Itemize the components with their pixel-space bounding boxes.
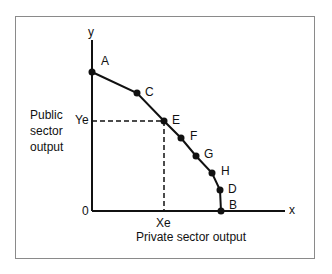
point-label-a: A [101, 55, 109, 68]
point-label-e: E [172, 114, 180, 127]
point-h-marker [209, 170, 216, 177]
frontier-points [89, 69, 225, 215]
point-label-c: C [145, 86, 154, 99]
xe-label: Xe [156, 217, 171, 230]
x-axis-label: x [289, 204, 295, 217]
point-a-marker [89, 69, 96, 76]
point-f-marker [178, 135, 185, 142]
point-c-marker [134, 90, 141, 97]
origin-label: 0 [82, 205, 89, 218]
production-possibility-frontier [92, 72, 221, 211]
y-axis-label: y [88, 26, 94, 39]
point-label-b: B [229, 199, 237, 212]
point-g-marker [193, 153, 200, 160]
point-label-g: G [204, 148, 213, 161]
point-label-d: D [228, 183, 237, 196]
point-label-h: H [221, 165, 230, 178]
point-label-f: F [190, 130, 197, 143]
x-axis-title: Private sector output [136, 231, 246, 244]
point-d-marker [217, 187, 224, 194]
point-b-marker [218, 208, 225, 215]
ye-label: Ye [75, 114, 89, 127]
point-e-marker [161, 118, 168, 125]
y-axis-title: Public sector output [30, 107, 63, 155]
